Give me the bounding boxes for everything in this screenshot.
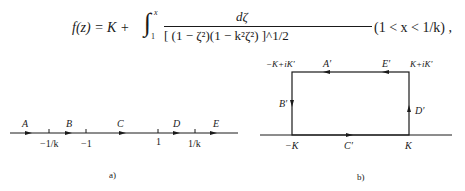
arrow-a-prime-icon (323, 70, 330, 74)
arrow-e-icon (210, 131, 217, 135)
caption-b: b) (357, 172, 365, 182)
corner-label-bottom-right: K (404, 140, 413, 151)
edge-label-d-prime: D′ (414, 105, 425, 116)
arrow-d-prime-icon (407, 105, 411, 112)
segment-label-b: B (66, 118, 72, 129)
edge-label-c-prime: C′ (344, 140, 354, 151)
corner-label-top-right: K+iK′ (409, 59, 434, 69)
segment-label-d: D (172, 118, 181, 129)
arrow-b-icon (65, 131, 72, 135)
caption-a: a) (109, 170, 116, 180)
arrow-b-prime-icon (290, 100, 294, 107)
tick-label-neg-one: −1 (81, 138, 92, 149)
segment-label-c: C (117, 118, 124, 129)
arrow-c-icon (119, 131, 126, 135)
arrow-d-icon (173, 131, 180, 135)
arrow-a-icon (25, 131, 32, 135)
tick-label-one: 1 (156, 136, 161, 147)
rectangle-contour (292, 72, 409, 135)
segment-label-a: A (21, 118, 29, 129)
tick-label-inv-k: 1/k (188, 138, 201, 149)
tick-label-neg-inv-k: −1/k (40, 138, 58, 149)
corner-label-top-left: −K+iK′ (266, 59, 296, 69)
edge-label-a-prime: A′ (322, 58, 332, 69)
segment-label-e: E (212, 118, 219, 129)
arrow-e-prime-icon (382, 70, 389, 74)
edge-label-e-prime: E′ (381, 58, 391, 69)
diagram-a-real-axis: A B C D E −1/k −1 1 1/k a) (10, 118, 238, 180)
arrow-c-prime-icon (346, 133, 353, 137)
diagrams-canvas: A B C D E −1/k −1 1 1/k a) −K+iK′ K+iK′ … (0, 0, 465, 191)
corner-label-bottom-left: −K (285, 140, 300, 151)
edge-label-b-prime: B′ (279, 98, 288, 109)
diagram-b-rectangle-image: −K+iK′ K+iK′ −K K A′ E′ B′ C′ D′ b) (260, 58, 452, 182)
